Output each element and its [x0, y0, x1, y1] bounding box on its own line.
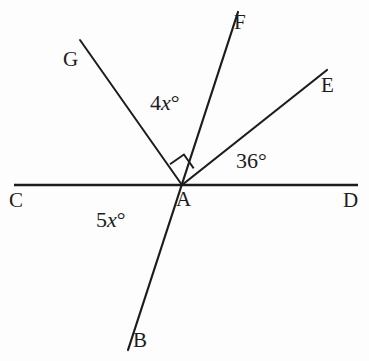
angle-5x-coefficient: 5 [96, 207, 107, 232]
point-label-e: E [321, 75, 334, 96]
angle-label-cab: 5x° [96, 209, 126, 231]
angle-5x-variable: x [107, 207, 117, 232]
angle-label-ead: 36° [236, 150, 267, 172]
angle-diagram-canvas [0, 0, 369, 361]
angle-label-gaf: 4x° [150, 92, 180, 114]
line-fb [128, 12, 238, 350]
point-label-b: B [133, 330, 147, 351]
point-label-g: G [63, 49, 78, 70]
point-label-a: A [176, 189, 191, 210]
point-label-c: C [9, 190, 23, 211]
geometry-figure: G F E C D A B 4x° 36° 5x° [0, 0, 369, 361]
point-label-f: F [234, 12, 246, 33]
angle-4x-variable: x [161, 90, 171, 115]
angle-4x-degree-sign: ° [171, 90, 180, 115]
point-label-d: D [343, 190, 358, 211]
angle-4x-coefficient: 4 [150, 90, 161, 115]
angle-5x-degree-sign: ° [117, 207, 126, 232]
